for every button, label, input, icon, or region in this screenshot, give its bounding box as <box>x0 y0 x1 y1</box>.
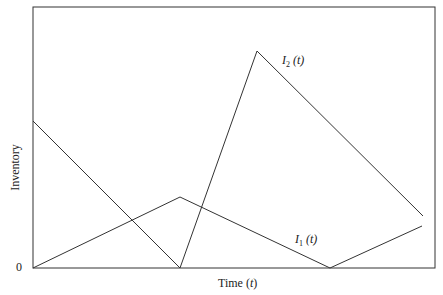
series-i2-line <box>33 51 423 268</box>
plot-frame <box>33 7 435 268</box>
x-axis-label: Time (t) <box>218 276 257 291</box>
i2-arg: (t) <box>293 53 304 67</box>
chart-canvas <box>0 0 443 295</box>
x-axis-label-end: ) <box>253 276 257 290</box>
i1-arg: (t) <box>306 232 317 246</box>
series-i1-line <box>33 197 422 268</box>
y-tick-zero: 0 <box>16 260 22 275</box>
i1-subscript: 1 <box>299 239 303 248</box>
series-i2-label: I2 (t) <box>282 53 304 69</box>
i2-subscript: 2 <box>286 60 290 69</box>
y-axis-label: Inventory <box>8 144 23 191</box>
x-axis-label-text: Time ( <box>218 276 250 290</box>
series-i1-label: I1 (t) <box>295 232 317 248</box>
